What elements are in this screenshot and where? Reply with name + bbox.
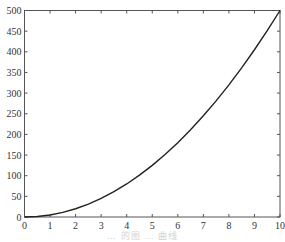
x-axis-ticks: [25, 11, 281, 218]
y-tick-label: 100: [7, 170, 22, 181]
figure-caption: … 的图 … 曲线: [0, 229, 285, 242]
plot-frame: [25, 11, 281, 218]
y-tick-label: 0: [17, 212, 22, 223]
y-tick-label: 500: [7, 5, 22, 16]
line-chart: 012345678910 050100150200250300350400450…: [0, 0, 285, 242]
y-tick-label: 450: [7, 26, 22, 37]
y-tick-label: 150: [7, 150, 22, 161]
y-tick-label: 400: [7, 46, 22, 57]
y-tick-label: 250: [7, 108, 22, 119]
data-series-line: [25, 11, 281, 218]
y-axis-ticks: [25, 11, 281, 218]
y-axis-tick-labels: 050100150200250300350400450500: [7, 5, 22, 223]
y-tick-label: 50: [12, 191, 22, 202]
y-tick-label: 200: [7, 129, 22, 140]
y-tick-label: 300: [7, 88, 22, 99]
y-tick-label: 350: [7, 67, 22, 78]
